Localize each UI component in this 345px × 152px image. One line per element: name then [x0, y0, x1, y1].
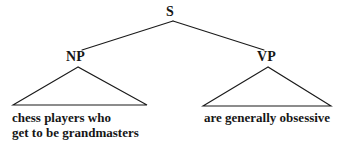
edge-s-to-np [82, 21, 173, 50]
node-label-s: S [166, 5, 174, 19]
vp-leaf-line-1: are generally obsessive [204, 111, 330, 126]
node-label-vp: VP [257, 50, 276, 64]
np-leaf-line-1: chess players who [12, 111, 139, 126]
np-leaf-line-2: get to be grandmasters [12, 126, 139, 141]
node-label-np: NP [66, 50, 85, 64]
np-triangle [13, 67, 147, 105]
vp-leaf-text: are generally obsessive [204, 111, 330, 126]
syntax-tree-figure: S NP VP chess players who get to be gran… [0, 0, 345, 152]
np-leaf-text: chess players who get to be grandmasters [12, 111, 139, 140]
vp-triangle [203, 67, 331, 106]
edge-s-to-vp [173, 21, 264, 50]
